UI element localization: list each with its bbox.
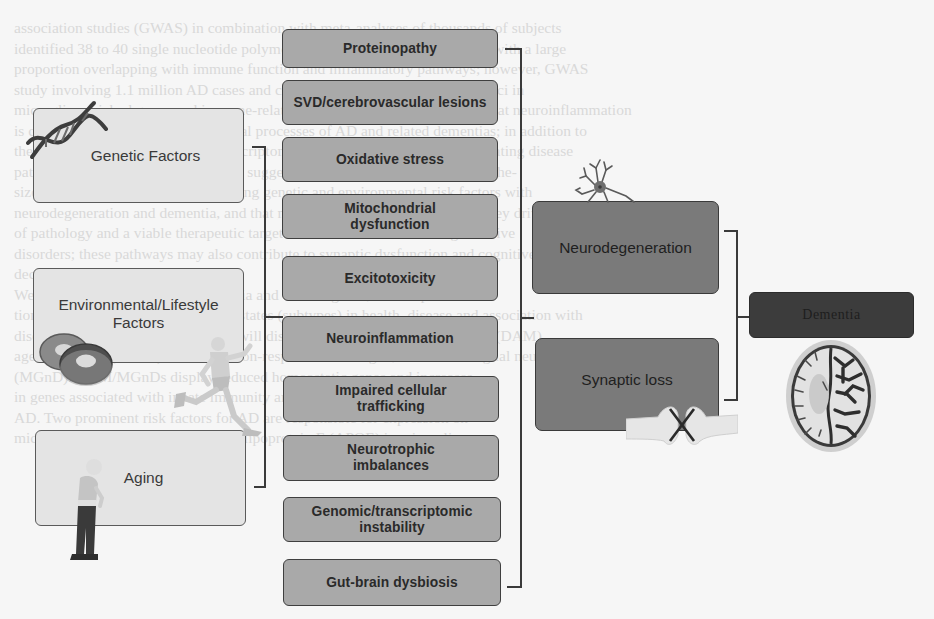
mechanism-label: Impaired cellular trafficking bbox=[284, 383, 498, 415]
mechanism-proteinopathy: Proteinopathy bbox=[282, 29, 498, 68]
connector-outcomes-bracket bbox=[724, 399, 738, 401]
mechanism-genomic-transcriptomic-instability: Genomic/transcriptomic instability bbox=[283, 497, 501, 542]
mechanism-impaired-cellular-trafficking: Impaired cellular trafficking bbox=[283, 376, 499, 422]
risk-factor-label: Environmental/Lifestyle Factors bbox=[52, 296, 225, 332]
outcome-label: Neurodegeneration bbox=[559, 239, 692, 257]
risk-factor-label: Aging bbox=[118, 469, 164, 487]
connector-mechanisms-bracket bbox=[505, 48, 521, 50]
mechanism-neuroinflammation: Neuroinflammation bbox=[282, 316, 498, 362]
broken-synapse-icon bbox=[626, 405, 738, 447]
connector-mechanisms-bracket bbox=[507, 586, 522, 588]
mechanism-label: Mitochondrial dysfunction bbox=[283, 201, 497, 233]
mechanism-oxidative-stress: Oxidative stress bbox=[282, 137, 498, 182]
connector-risk-factors-to-mechanisms bbox=[265, 316, 283, 318]
dna-helix-icon bbox=[22, 99, 108, 165]
endpoint-label: Dementia bbox=[802, 306, 860, 324]
mechanism-label: SVD/cerebrovascular lesions bbox=[290, 95, 491, 111]
neuron-icon bbox=[560, 158, 660, 204]
outcome-label: Synaptic loss bbox=[581, 371, 672, 389]
connector-risk-factors-bracket bbox=[254, 486, 266, 488]
mechanism-excitotoxicity: Excitotoxicity bbox=[282, 256, 498, 301]
mechanism-label: Proteinopathy bbox=[343, 41, 437, 57]
mechanism-label: Neurotrophic imbalances bbox=[284, 442, 498, 474]
elderly-person-icon bbox=[66, 458, 112, 562]
mechanism-label: Gut-brain dysbiosis bbox=[326, 575, 457, 591]
mechanism-label: Excitotoxicity bbox=[344, 271, 435, 287]
mechanism-svd-cerebrovascular: SVD/cerebrovascular lesions bbox=[282, 80, 498, 125]
mechanism-gut-brain-dysbiosis: Gut-brain dysbiosis bbox=[283, 559, 501, 606]
endpoint-dementia: Dementia bbox=[749, 292, 914, 338]
mechanism-mitochondrial-dysfunction: Mitochondrial dysfunction bbox=[282, 194, 498, 239]
outcome-neurodegeneration: Neurodegeneration bbox=[532, 201, 719, 294]
atrophied-brain-icon bbox=[783, 336, 879, 454]
donuts-icon bbox=[34, 328, 118, 390]
runner-icon bbox=[166, 336, 266, 446]
mechanism-label: Genomic/transcriptomic instability bbox=[284, 504, 500, 536]
mechanism-label: Neuroinflammation bbox=[326, 331, 453, 347]
connector-outcomes-to-dementia bbox=[737, 316, 749, 318]
connector-mechanisms-to-outcomes bbox=[521, 317, 534, 319]
mechanism-neurotrophic-imbalances: Neurotrophic imbalances bbox=[283, 435, 499, 481]
mechanism-label: Oxidative stress bbox=[336, 152, 444, 168]
